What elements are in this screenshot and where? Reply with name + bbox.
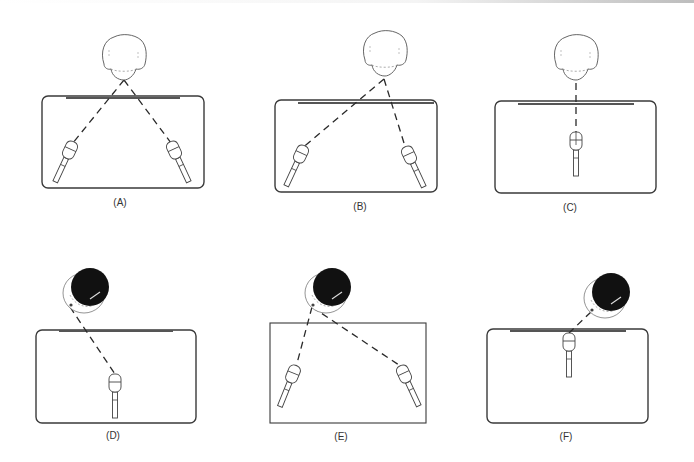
microphone-icon [274, 363, 302, 408]
panel-a [42, 35, 204, 188]
panel-f [487, 273, 648, 423]
nose [590, 308, 593, 311]
pickup-axis-dashed-line [312, 307, 400, 366]
panel-c [495, 35, 656, 193]
microphone-icon [570, 132, 582, 176]
diagram-canvas [0, 0, 694, 462]
pickup-axis-dashed-line [124, 80, 170, 142]
microphone-icon [50, 139, 79, 184]
head-light-icon [554, 35, 598, 80]
head-light-icon [363, 31, 407, 76]
head-dark-hair-icon [305, 268, 351, 313]
hair [71, 268, 109, 306]
mic-handle [284, 161, 300, 187]
panel-label-a: (A) [113, 197, 126, 208]
microphone-icon [563, 333, 575, 377]
pickup-axis-dashed-line [305, 79, 384, 146]
mic-handle [574, 150, 579, 176]
mic-handle [53, 157, 69, 183]
mic-capsule [109, 374, 121, 392]
head-light-icon [102, 35, 146, 80]
mic-handle [406, 381, 422, 407]
mic-handle [176, 157, 192, 183]
head-dark-hair-icon [63, 268, 109, 313]
panel-label-d: (D) [106, 430, 120, 441]
hair [592, 273, 630, 311]
mic-handle [113, 392, 118, 418]
panel-label-b: (B) [353, 201, 366, 212]
head-outline [102, 35, 146, 80]
pickup-axis-dashed-line [296, 307, 312, 366]
pickup-axis-dashed-line [569, 312, 591, 333]
panel-label-e: (E) [334, 431, 347, 442]
mic-handle [411, 162, 427, 188]
mic-handle [278, 381, 292, 407]
mic-capsule [284, 363, 302, 384]
mic-handle [567, 351, 572, 377]
panel-b [275, 31, 437, 192]
microphone-icon [395, 363, 424, 408]
microphone-icon [109, 374, 121, 418]
hair [313, 268, 351, 306]
mic-capsule [563, 333, 575, 351]
microphone-icon [281, 143, 310, 188]
pickup-axis-dashed-line [384, 79, 405, 147]
microphone-icon [165, 139, 194, 184]
head-outline [554, 35, 598, 80]
nose [311, 303, 314, 306]
panel-d [36, 268, 196, 423]
panel-e [270, 268, 426, 423]
nose [69, 303, 72, 306]
microphone-icon [400, 144, 429, 189]
pickup-axis-dashed-line [74, 80, 124, 142]
panel-label-c: (C) [563, 202, 577, 213]
head-outline [363, 31, 407, 76]
pickup-axis-dashed-line [70, 307, 115, 374]
table-outline [42, 96, 204, 188]
panel-label-f: (F) [560, 431, 573, 442]
head-dark-hair-icon [584, 273, 630, 318]
